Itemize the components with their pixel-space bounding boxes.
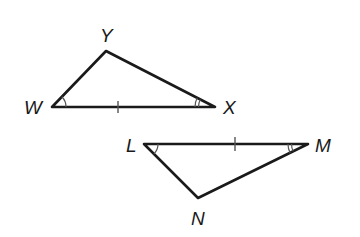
triangle-lmn-outline [144, 144, 308, 198]
congruent-triangles-diagram: W Y X L M N [0, 0, 360, 237]
triangle-wxy-outline [52, 51, 215, 107]
vertex-label-y: Y [100, 25, 114, 46]
vertex-label-x: X [222, 97, 237, 118]
triangle-lmn: L M N [126, 135, 331, 229]
triangle-wxy: W Y X [24, 25, 237, 118]
vertex-label-n: N [191, 208, 205, 229]
angle-m-arc-outer [288, 144, 290, 153]
vertex-label-w: W [24, 97, 44, 118]
vertex-label-m: M [315, 135, 331, 156]
vertex-label-l: L [126, 135, 137, 156]
angle-l-arc [154, 144, 158, 154]
angle-w-arc [62, 97, 66, 107]
angle-x-arc-outer [195, 98, 197, 107]
